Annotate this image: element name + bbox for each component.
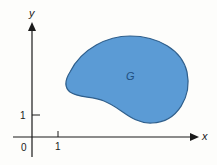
region-label: G [126, 70, 135, 82]
y-axis-arrow-icon [28, 22, 36, 31]
x-axis-arrow-icon [190, 133, 199, 141]
y-tick-label: 1 [20, 110, 26, 121]
origin-label: 0 [21, 142, 27, 153]
diagram-svg: y x 0 1 1 G [0, 0, 217, 165]
x-axis-label: x [201, 130, 208, 142]
x-tick-label: 1 [55, 141, 61, 152]
y-axis-label: y [28, 7, 36, 19]
diagram-canvas: y x 0 1 1 G [0, 0, 217, 165]
